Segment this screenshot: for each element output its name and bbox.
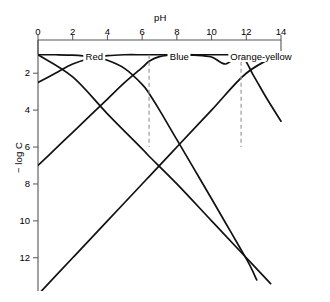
y-tick-label-6: 6 [8,141,30,152]
region-label-blue: Blue [168,51,191,62]
x-tick-label-14: 14 [271,26,291,37]
curve-h- [38,55,271,284]
x-tick-label-0: 0 [28,26,48,37]
y-tick-label-12: 12 [8,252,30,263]
x-tick-label-12: 12 [236,26,256,37]
x-tick-label-2: 2 [63,26,83,37]
y-tick-label-2: 2 [8,67,30,78]
curve-oh- [38,53,281,295]
y-tick-label-10: 10 [8,215,30,226]
x-tick-label-8: 8 [167,26,187,37]
curve-h2in [38,55,257,280]
region-label-orange-yellow: Orange-yellow [228,51,293,62]
region-label-red: Red [84,51,105,62]
log-concentration-diagram: pH − log C 0246810121424681012 RedBlueOr… [0,0,330,302]
x-tick-label-6: 6 [132,26,152,37]
y-tick-label-4: 4 [8,104,30,115]
y-tick-label-8: 8 [8,178,30,189]
x-tick-label-4: 4 [97,26,117,37]
x-tick-label-10: 10 [202,26,222,37]
plot-canvas [0,0,330,302]
